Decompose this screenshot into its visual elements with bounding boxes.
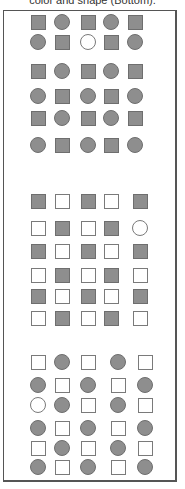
circle-empty-icon — [80, 34, 96, 50]
circle-filled-icon — [80, 377, 96, 393]
square-filled-icon — [104, 35, 119, 50]
square-empty-icon — [138, 355, 153, 370]
circle-filled-icon — [54, 354, 70, 370]
square-empty-icon — [81, 398, 96, 413]
square-empty-icon — [138, 398, 153, 413]
square-filled-icon — [55, 35, 70, 50]
square-filled-icon — [133, 194, 148, 209]
circle-filled-icon — [54, 14, 70, 30]
square-filled-icon — [104, 268, 119, 283]
square-empty-icon — [31, 311, 46, 326]
circle-filled-icon — [30, 88, 46, 104]
square-filled-icon — [55, 311, 70, 326]
circle-filled-icon — [30, 137, 46, 153]
square-filled-icon — [81, 15, 96, 30]
circle-filled-icon — [127, 137, 143, 153]
square-empty-icon — [133, 311, 148, 326]
square-empty-icon — [31, 441, 46, 456]
square-filled-icon — [31, 64, 46, 79]
circle-filled-icon — [54, 63, 70, 79]
square-empty-icon — [81, 268, 96, 283]
circle-filled-icon — [80, 137, 96, 153]
circle-filled-icon — [110, 397, 126, 413]
square-empty-icon — [133, 268, 148, 283]
square-empty-icon — [55, 460, 70, 475]
square-filled-icon — [31, 289, 46, 304]
square-filled-icon — [55, 268, 70, 283]
square-empty-icon — [55, 378, 70, 393]
circle-filled-icon — [137, 420, 153, 436]
square-filled-icon — [81, 111, 96, 126]
square-filled-icon — [55, 138, 70, 153]
square-empty-icon — [55, 421, 70, 436]
circle-filled-icon — [30, 420, 46, 436]
square-filled-icon — [104, 89, 119, 104]
square-filled-icon — [104, 221, 119, 236]
square-empty-icon — [31, 355, 46, 370]
circle-filled-icon — [103, 14, 119, 30]
circle-filled-icon — [30, 459, 46, 475]
circle-filled-icon — [80, 88, 96, 104]
square-filled-icon — [133, 289, 148, 304]
circle-filled-icon — [30, 377, 46, 393]
square-empty-icon — [55, 194, 70, 209]
square-empty-icon — [55, 289, 70, 304]
circle-filled-icon — [80, 459, 96, 475]
circle-filled-icon — [103, 110, 119, 126]
circle-filled-icon — [54, 440, 70, 456]
square-filled-icon — [128, 111, 143, 126]
square-empty-icon — [31, 268, 46, 283]
square-filled-icon — [31, 244, 46, 259]
square-empty-icon — [104, 289, 119, 304]
square-empty-icon — [104, 194, 119, 209]
square-filled-icon — [31, 194, 46, 209]
circle-filled-icon — [137, 459, 153, 475]
square-filled-icon — [81, 289, 96, 304]
circle-filled-icon — [54, 110, 70, 126]
circle-empty-icon — [132, 220, 148, 236]
square-filled-icon — [81, 244, 96, 259]
figure-caption: color and shape (Bottom). — [0, 0, 185, 6]
square-filled-icon — [55, 89, 70, 104]
square-filled-icon — [81, 64, 96, 79]
square-empty-icon — [81, 441, 96, 456]
circle-filled-icon — [110, 440, 126, 456]
circle-filled-icon — [127, 34, 143, 50]
circle-filled-icon — [30, 34, 46, 50]
circle-filled-icon — [127, 88, 143, 104]
square-empty-icon — [104, 244, 119, 259]
square-empty-icon — [55, 244, 70, 259]
square-empty-icon — [111, 460, 126, 475]
circle-filled-icon — [110, 354, 126, 370]
square-empty-icon — [111, 421, 126, 436]
square-filled-icon — [133, 244, 148, 259]
square-filled-icon — [104, 138, 119, 153]
circle-filled-icon — [137, 377, 153, 393]
circle-filled-icon — [54, 397, 70, 413]
square-empty-icon — [81, 355, 96, 370]
square-filled-icon — [104, 311, 119, 326]
circle-filled-icon — [103, 63, 119, 79]
square-empty-icon — [111, 378, 126, 393]
square-filled-icon — [55, 221, 70, 236]
square-filled-icon — [81, 194, 96, 209]
square-empty-icon — [31, 221, 46, 236]
square-filled-icon — [31, 15, 46, 30]
circle-filled-icon — [80, 420, 96, 436]
square-filled-icon — [128, 64, 143, 79]
square-filled-icon — [31, 111, 46, 126]
square-empty-icon — [138, 441, 153, 456]
square-filled-icon — [128, 15, 143, 30]
square-empty-icon — [81, 221, 96, 236]
circle-empty-icon — [30, 397, 46, 413]
square-empty-icon — [81, 311, 96, 326]
